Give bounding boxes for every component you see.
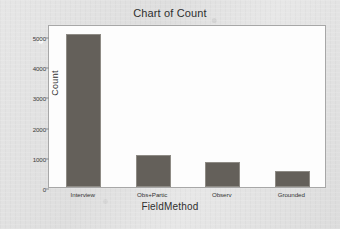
chart-figure: Chart of Count Count 0100020003000400050…	[0, 0, 340, 229]
x-tick-label: Grounded	[257, 191, 327, 198]
x-tick-label: Interview	[48, 191, 118, 198]
bar	[136, 155, 171, 187]
x-tick-label: Obs+Partic	[118, 191, 188, 198]
bar	[205, 162, 240, 187]
x-axis-title: FieldMethod	[0, 201, 340, 212]
chart-title: Chart of Count	[0, 7, 340, 19]
bar	[66, 34, 101, 187]
bar	[275, 171, 310, 187]
x-tick-label: Observ	[187, 191, 257, 198]
bar-series	[49, 26, 325, 187]
y-tick-mark	[46, 189, 49, 190]
plot-area: Count 010002000300040005000	[48, 25, 326, 188]
